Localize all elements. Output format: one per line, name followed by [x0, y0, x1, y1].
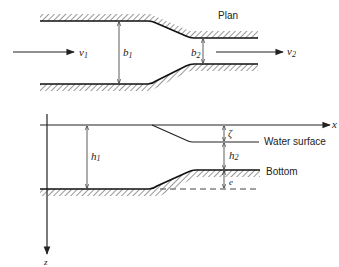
plan-view: v1 b1 b2 v2 Plan: [13, 10, 296, 91]
bottom-label: Bottom: [266, 166, 298, 177]
water-surface-line: [152, 125, 259, 142]
h2-label: h2: [229, 149, 239, 162]
bottom-hatch: [40, 170, 260, 196]
section-view: z x h1 ζ h2 e Water surface Bottom: [40, 114, 337, 267]
plan-bottom-wall-hatch: [40, 64, 258, 91]
b2-label: b2: [191, 46, 201, 60]
z-axis-label: z: [43, 257, 48, 267]
b1-label: b1: [123, 46, 133, 60]
plan-label: Plan: [218, 10, 238, 21]
water-surface-label: Water surface: [264, 136, 326, 147]
x-axis-label: x: [331, 118, 337, 130]
outflow-velocity-label: v2: [287, 45, 296, 59]
zeta-label: ζ: [228, 128, 233, 140]
h1-label: h1: [91, 150, 101, 163]
inflow-velocity-label: v1: [79, 46, 88, 60]
channel-contraction-diagram: v1 b1 b2 v2 Plan z x: [0, 0, 339, 267]
e-label: e: [229, 177, 233, 187]
